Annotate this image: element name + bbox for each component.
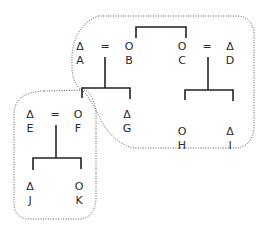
female-symbol-icon: O	[71, 109, 85, 120]
male-symbol-icon: Δ	[23, 109, 37, 120]
marriage-sign-icon: =	[48, 109, 62, 120]
male-symbol-icon: Δ	[73, 41, 87, 52]
individual-label-j: J	[23, 195, 37, 206]
individual-label-f: F	[71, 123, 85, 134]
female-symbol-icon: O	[175, 41, 189, 52]
female-symbol-icon: O	[72, 181, 86, 192]
female-symbol-icon: O	[122, 41, 136, 52]
individual-label-b: B	[122, 55, 136, 66]
individual-label-k: K	[72, 195, 86, 206]
individual-label-h: H	[175, 140, 189, 151]
individual-label-d: D	[223, 55, 237, 66]
individual-label-g: G	[120, 123, 134, 134]
female-symbol-icon: O	[175, 126, 189, 137]
male-symbol-icon: Δ	[120, 109, 134, 120]
individual-label-i: I	[223, 140, 237, 151]
male-symbol-icon: Δ	[23, 181, 37, 192]
marriage-sign-icon: =	[200, 41, 214, 52]
individual-label-a: A	[73, 55, 87, 66]
male-symbol-icon: Δ	[223, 126, 237, 137]
male-symbol-icon: Δ	[223, 41, 237, 52]
marriage-sign-icon: =	[98, 41, 112, 52]
individual-label-e: E	[23, 123, 37, 134]
individual-label-c: C	[175, 55, 189, 66]
